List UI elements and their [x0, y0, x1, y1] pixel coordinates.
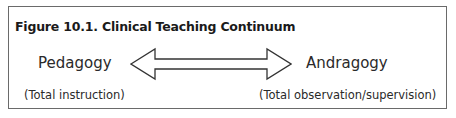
pedagogy-sublabel: (Total instruction): [24, 88, 125, 102]
figure-title: Figure 10.1. Clinical Teaching Continuum: [15, 19, 295, 34]
andragogy-sublabel: (Total observation/supervision): [259, 88, 436, 102]
andragogy-label: Andragogy: [306, 54, 388, 72]
pedagogy-label: Pedagogy: [38, 54, 112, 72]
double-arrow-icon: [130, 47, 292, 81]
